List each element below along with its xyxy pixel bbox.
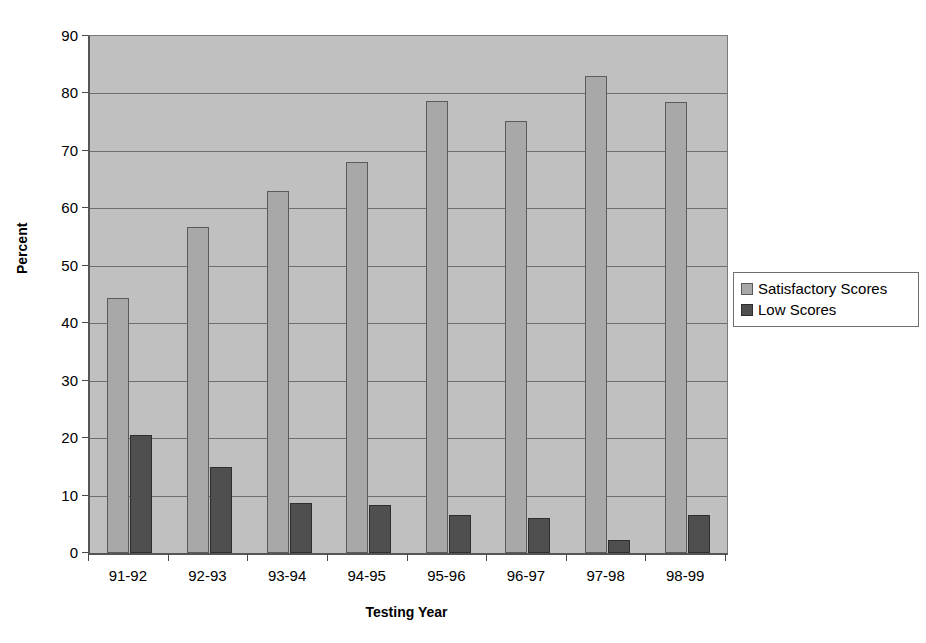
bar-low	[369, 505, 391, 553]
x-axis-title: Testing Year	[0, 604, 813, 620]
x-tick-label: 93-94	[247, 568, 327, 583]
bar-satisfactory	[267, 191, 289, 553]
gridline	[90, 323, 727, 324]
legend-label-satisfactory: Satisfactory Scores	[758, 280, 887, 297]
x-tick-mark	[327, 554, 328, 561]
gridline	[90, 266, 727, 267]
x-tick-label: 91-92	[88, 568, 168, 583]
bar-low	[290, 503, 312, 553]
bar-satisfactory	[585, 76, 607, 553]
bar-chart: Percent 0102030405060708090 91-9292-9393…	[0, 0, 926, 643]
x-tick-label: 97-98	[566, 568, 646, 583]
plot-area	[88, 35, 728, 555]
y-tick-label: 90	[42, 28, 78, 43]
bar-satisfactory	[665, 102, 687, 554]
x-tick-label: 96-97	[486, 568, 566, 583]
legend-item-satisfactory: Satisfactory Scores	[741, 278, 912, 299]
bar-low	[688, 515, 710, 553]
y-axis-title: Percent	[14, 223, 30, 274]
x-tick-mark	[168, 554, 169, 561]
y-tick-label: 10	[42, 488, 78, 503]
x-tick-mark	[725, 554, 726, 561]
y-tick-label: 30	[42, 373, 78, 388]
gridline	[90, 93, 727, 94]
bar-low	[528, 518, 550, 553]
y-tick-label: 20	[42, 430, 78, 445]
legend: Satisfactory Scores Low Scores	[733, 272, 919, 327]
gridline	[90, 496, 727, 497]
gridline	[90, 208, 727, 209]
x-tick-mark	[247, 554, 248, 561]
y-tick-label: 80	[42, 85, 78, 100]
bar-satisfactory	[426, 101, 448, 553]
bar-satisfactory	[107, 298, 129, 553]
y-tick-label: 60	[42, 200, 78, 215]
bar-satisfactory	[346, 162, 368, 553]
y-tick-label: 40	[42, 315, 78, 330]
satisfactory-swatch-icon	[741, 283, 753, 295]
x-tick-mark	[486, 554, 487, 561]
bar-satisfactory	[187, 227, 209, 553]
bar-low	[210, 467, 232, 553]
bar-low	[130, 435, 152, 553]
bar-low	[608, 540, 630, 553]
y-tick-label: 50	[42, 258, 78, 273]
bar-satisfactory	[505, 121, 527, 553]
x-tick-mark	[88, 554, 89, 561]
x-tick-label: 98-99	[645, 568, 725, 583]
x-tick-mark	[566, 554, 567, 561]
y-tick-label: 70	[42, 143, 78, 158]
bar-low	[449, 515, 471, 553]
y-tick-label: 0	[42, 545, 78, 560]
x-tick-label: 92-93	[167, 568, 247, 583]
x-tick-label: 94-95	[327, 568, 407, 583]
gridline	[90, 438, 727, 439]
legend-item-low: Low Scores	[741, 299, 912, 320]
x-tick-label: 95-96	[406, 568, 486, 583]
x-tick-mark	[645, 554, 646, 561]
gridline	[90, 381, 727, 382]
low-swatch-icon	[741, 304, 753, 316]
gridline	[90, 151, 727, 152]
x-tick-mark	[407, 554, 408, 561]
legend-label-low: Low Scores	[758, 301, 836, 318]
